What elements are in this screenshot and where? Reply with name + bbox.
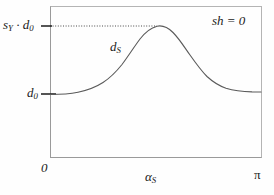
x-axis-label-zero: 0	[41, 161, 48, 174]
annotation-sh: sh = 0	[212, 14, 245, 27]
y-axis-label-d0: d0	[27, 86, 38, 101]
curve-label-ds: dS	[110, 40, 121, 55]
y-axis-label-sy-d0: sY · d0	[3, 18, 34, 33]
x-axis-label-pi: π	[254, 168, 261, 181]
x-axis-label-alpha-s: αS	[145, 170, 156, 185]
figure-container: sY · d0 d0 dS sh = 0 0 αS π	[0, 0, 274, 195]
curve-ds	[50, 26, 261, 95]
